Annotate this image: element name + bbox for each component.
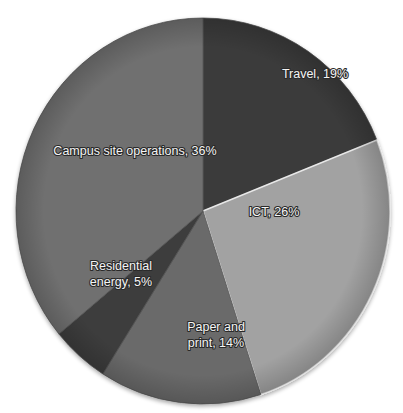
label-ict: ICT, 26% — [249, 205, 300, 219]
pie-chart: Travel, 19% ICT, 26% Paper and print, 14… — [0, 0, 403, 413]
label-residential-line2: energy, 5% — [90, 275, 152, 289]
label-residential-line1: Residential — [90, 259, 152, 273]
label-travel: Travel, 19% — [282, 67, 348, 81]
label-paper-line1: Paper and — [187, 320, 245, 334]
label-paper-line2: print, 14% — [188, 336, 244, 350]
label-campus: Campus site operations, 36% — [53, 144, 216, 158]
